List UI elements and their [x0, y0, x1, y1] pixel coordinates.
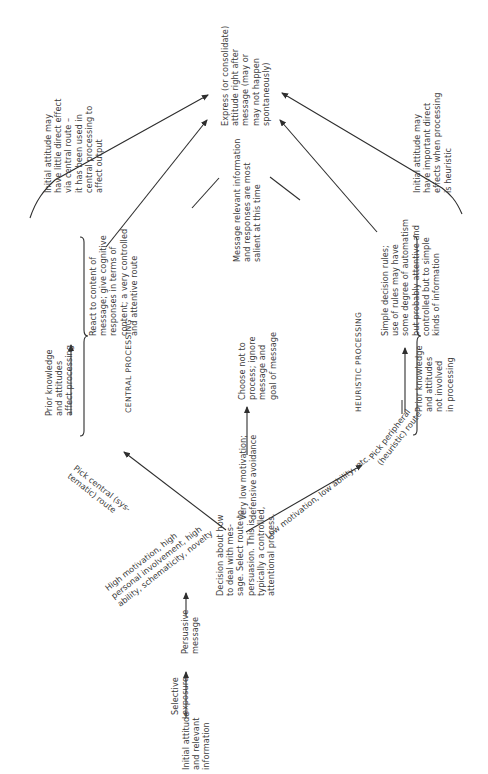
note-heuristic-initial-attitude: Initial attitude may have important dire…: [412, 93, 453, 193]
node-persuasive-message: Persuasive message: [180, 610, 200, 654]
node-central-react: React to content of message; give cognit…: [88, 229, 139, 336]
salient-tick-left: [192, 178, 219, 208]
arrow-heuristic-to-express: [280, 120, 377, 232]
salient-tick-right: [270, 177, 300, 200]
node-heuristic-prior-knowledge: Prior knowledge and attitudes not involv…: [414, 345, 455, 412]
note-central-initial-attitude: Initial attitude may have little direct …: [43, 99, 104, 193]
heading-heuristic-processing: HEURISTIC PROCESSING: [354, 312, 364, 412]
node-express-attitude: Express (or consolidate) attitude right …: [220, 26, 271, 126]
node-decision: Decision about how to deal with mes- sag…: [215, 507, 276, 596]
node-very-low-motivation: Very low motivation; defensive avoidance: [238, 435, 258, 520]
node-selective-exposure: Selective exposure: [170, 677, 190, 715]
brace-central: [80, 237, 88, 436]
arrow-central-route: [124, 452, 226, 530]
node-choose-not-to-process: Choose not to process; ignore message an…: [237, 332, 278, 400]
node-salient-information: Message relevant information and respons…: [232, 138, 263, 262]
node-heuristic-rules: Simple decision rules; use of rules may …: [380, 219, 441, 336]
node-initial-attitude: Initial attitude and relevant informatio…: [181, 712, 212, 770]
node-central-prior-knowledge: Prior knowledge and attitudes affect pro…: [44, 345, 75, 416]
